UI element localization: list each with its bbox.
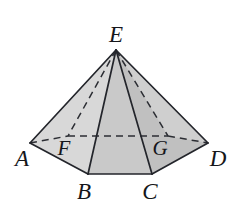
vertex-label-g: G <box>152 136 167 160</box>
vertex-label-c: C <box>142 179 158 204</box>
vertex-label-f: F <box>57 136 71 160</box>
pyramid-diagram: E A B C D F G <box>0 0 245 220</box>
vertex-label-e: E <box>108 22 123 47</box>
pyramid-figure: E A B C D F G <box>0 0 245 220</box>
vertex-label-d: D <box>209 146 227 171</box>
vertex-label-a: A <box>13 146 30 171</box>
vertex-label-b: B <box>77 179 91 204</box>
